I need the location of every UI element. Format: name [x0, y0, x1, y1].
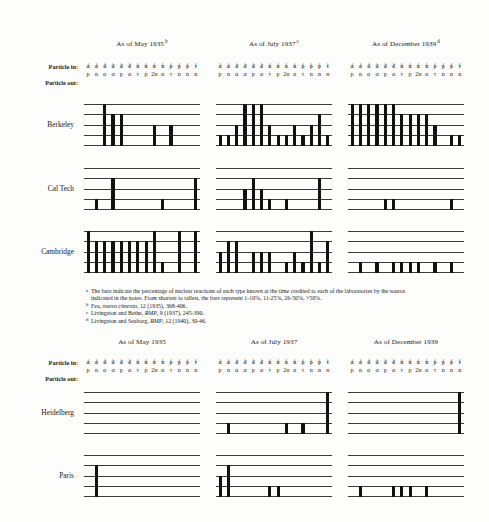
bar-slot: [266, 392, 274, 434]
reaction-tick: |: [175, 358, 183, 365]
reaction-tick: |: [299, 358, 307, 365]
bar-slot: [84, 455, 92, 497]
bar-slot: [134, 392, 142, 434]
bar: [111, 178, 114, 210]
bar-slot: [241, 104, 249, 146]
bar: [161, 199, 164, 210]
reaction-tick: |: [356, 358, 364, 365]
bar-slot: [167, 104, 175, 146]
particle-out-cell: τ: [299, 366, 307, 374]
bar-slot: [183, 455, 191, 497]
bar-slot: [299, 104, 307, 146]
bar-slot: [365, 231, 373, 273]
column-header-2: As of July 1937c: [216, 38, 332, 48]
bar: [111, 241, 114, 273]
bar: [219, 135, 222, 146]
bar-slot: [233, 104, 241, 146]
bar-slot: [109, 168, 117, 210]
bar-slot: [183, 392, 191, 434]
bar-slot: [291, 231, 299, 273]
footnote-mark: c: [86, 309, 88, 316]
bar: [227, 423, 230, 434]
bar-slot: [406, 104, 414, 146]
bar: [227, 465, 230, 497]
bar: [120, 114, 123, 146]
reaction-tick: |: [249, 62, 257, 69]
reaction-tick: |: [315, 358, 323, 365]
bar: [260, 252, 263, 274]
reaction-tick: |: [439, 62, 447, 69]
bar-slot: [117, 455, 125, 497]
particle-key-3: ααddddnnnnpppτ||||||||||||||pnααpατp2nατ…: [348, 62, 464, 78]
bar-slot: [414, 392, 422, 434]
particle-out-cell: τ: [266, 366, 274, 374]
bar-slot: [324, 168, 332, 210]
bar-panel: [348, 392, 464, 434]
bar-slot: [456, 231, 464, 273]
bar-slot: [274, 455, 282, 497]
bar-slot: [274, 392, 282, 434]
bar: [178, 231, 181, 273]
bar-slot: [414, 168, 422, 210]
bar-panel: [216, 455, 332, 497]
particle-out-cell: n: [356, 366, 364, 374]
particle-out-cell: α: [389, 366, 397, 374]
particle-out-cell: α: [125, 366, 133, 374]
bar-slot: [192, 455, 200, 497]
panel-bars: [84, 455, 200, 497]
bar-slot: [439, 392, 447, 434]
bar-slot: [439, 231, 447, 273]
bar-slot: [447, 231, 455, 273]
bar-slot: [447, 455, 455, 497]
bar-slot: [150, 168, 158, 210]
bar-slot: [266, 231, 274, 273]
bar-slot: [241, 455, 249, 497]
reaction-tick: |: [431, 358, 439, 365]
bar-slot: [117, 104, 125, 146]
bar: [301, 423, 304, 434]
particle-out-cell: τ: [167, 70, 175, 78]
particle-out-label: Particle out:: [0, 79, 78, 86]
bar-slot: [381, 168, 389, 210]
bar: [161, 262, 164, 273]
panel-bars: [216, 231, 332, 273]
column-header-2: As of July 1937: [216, 338, 332, 346]
particle-out-cell: n: [439, 366, 447, 374]
bar-slot: [447, 168, 455, 210]
particle-out-cell: n: [456, 70, 464, 78]
column-header-3: As of December 1939d: [348, 38, 464, 48]
reaction-tick: |: [282, 62, 290, 69]
column-header-title: As of December 1939: [372, 40, 436, 48]
bar-slot: [398, 104, 406, 146]
footnote-citation: , 12 (1935), 368-406.: [137, 303, 187, 309]
bar-slot: [109, 231, 117, 273]
bar: [392, 199, 395, 210]
bar: [433, 125, 436, 147]
bar-slot: [167, 231, 175, 273]
bar-slot: [134, 168, 142, 210]
particle-out-cell: n: [456, 366, 464, 374]
particle-out-label: Particle out:: [0, 375, 78, 382]
particle-out-cell: n: [324, 366, 332, 374]
bar: [103, 104, 106, 146]
bar-slot: [142, 168, 150, 210]
bar-slot: [192, 168, 200, 210]
reaction-tick: |: [291, 62, 299, 69]
bar-slot: [84, 231, 92, 273]
footnote-d: dLivingston and Seaborg, RMP, 12 (1940),…: [86, 318, 426, 325]
particle-out-cell: p: [117, 70, 125, 78]
bar-slot: [266, 455, 274, 497]
reaction-tick: |: [257, 62, 265, 69]
bar-slot: [183, 104, 191, 146]
bar: [87, 231, 90, 273]
bar-slot: [266, 104, 274, 146]
particle-out-cell: α: [423, 366, 431, 374]
reaction-tick: |: [398, 358, 406, 365]
particle-out-cell: 2n: [282, 70, 290, 78]
bar-slot: [125, 168, 133, 210]
reaction-tick: |: [125, 62, 133, 69]
particle-tick-row: ||||||||||||||: [348, 358, 464, 365]
particle-out-cell: p: [216, 366, 224, 374]
particle-out-cell: τ: [431, 70, 439, 78]
particle-key-1: ααddddnnnnpppτ||||||||||||||pnααpατp2nατ…: [84, 358, 200, 374]
